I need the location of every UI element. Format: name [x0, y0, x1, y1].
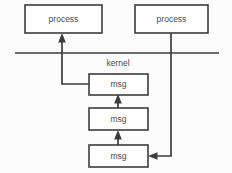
node-process-left[interactable]: process	[25, 5, 102, 33]
node-process-left-label: process	[49, 14, 79, 24]
diagram-canvas: process process msg msg msg kernel	[0, 0, 232, 173]
node-msg-middle[interactable]: msg	[89, 108, 148, 130]
node-msg-middle-label: msg	[110, 114, 126, 124]
node-msg-bottom[interactable]: msg	[89, 145, 148, 167]
kernel-label: kernel	[106, 58, 129, 68]
edge-msgbottom-to-msgmiddle	[114, 130, 122, 145]
node-msg-bottom-label: msg	[110, 151, 126, 161]
edge-processright-to-msgbottom-path	[156, 33, 171, 156]
arrowhead-left-to-msg-bottom	[148, 152, 158, 160]
node-process-right-label: process	[157, 14, 187, 24]
node-process-right[interactable]: process	[135, 5, 208, 33]
arrowhead-up-to-msg-middle	[114, 130, 122, 140]
arrowhead-up-to-process-left	[58, 33, 66, 43]
edge-msgtop-to-processleft-path	[62, 40, 89, 84]
edge-processright-to-msgbottom	[148, 33, 171, 160]
node-msg-top-label: msg	[110, 79, 126, 89]
node-msg-top[interactable]: msg	[89, 74, 148, 95]
edge-msgtop-to-processleft	[58, 33, 89, 84]
edge-msgmiddle-to-msgtop	[114, 94, 122, 108]
